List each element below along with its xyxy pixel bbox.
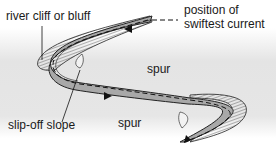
label-spur-upper: spur (147, 63, 170, 76)
legend-line-1: position of (184, 4, 239, 17)
label-river-cliff: river cliff or bluff (6, 10, 90, 23)
legend-line-2: swiftest current (184, 18, 265, 31)
meander-diagram: river cliff or bluff position of swiftes… (0, 0, 276, 150)
label-spur-lower: spur (118, 117, 141, 130)
label-slip-off-slope: slip-off slope (8, 119, 75, 132)
